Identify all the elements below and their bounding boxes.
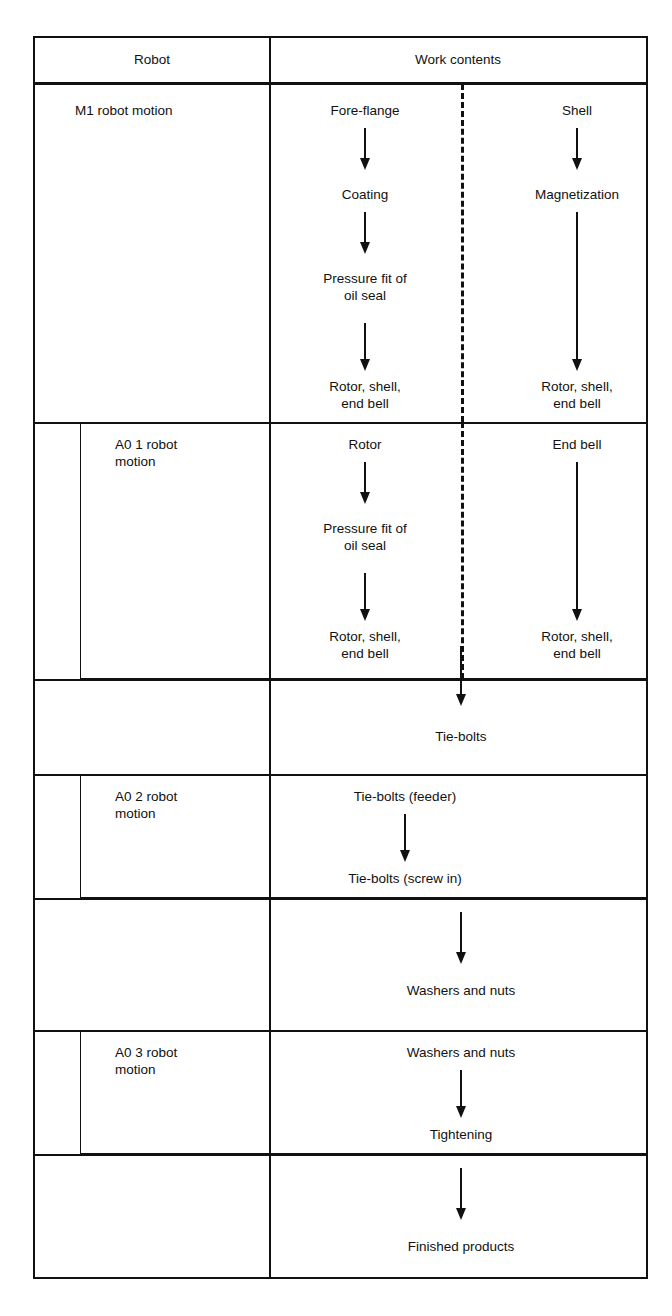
down-arrow-icon <box>451 1168 471 1220</box>
down-arrow-icon <box>355 462 375 504</box>
down-arrow-icon <box>451 646 471 706</box>
node-pressure-fit-of-oil-seal-a01: Pressure fit of oil seal <box>275 520 455 554</box>
node-rotor-shell-end-bell-right-a01: Rotor, shell, end bell <box>502 628 652 662</box>
down-arrow-icon <box>355 323 375 371</box>
node-finished-products: Finished products <box>341 1238 581 1255</box>
row-label-a01-robot-motion: A0 1 robot motion <box>115 436 265 470</box>
node-fore-flange: Fore-flange <box>275 102 455 119</box>
down-arrow-icon <box>395 814 415 862</box>
down-arrow-icon <box>451 1070 471 1118</box>
down-arrow-icon <box>567 212 587 371</box>
down-arrow-icon <box>355 212 375 254</box>
down-arrow-icon <box>567 462 587 621</box>
dashed-divider-icon <box>461 84 464 422</box>
node-rotor-shell-end-bell-left-a01: Rotor, shell, end bell <box>275 628 455 662</box>
row-separator <box>35 898 646 900</box>
down-arrow-icon <box>451 912 471 964</box>
node-rotor-shell-end-bell-left: Rotor, shell, end bell <box>275 378 455 412</box>
header-separator <box>35 82 646 85</box>
row-separator <box>35 679 646 681</box>
node-tie-bolts-feeder: Tie-bolts (feeder) <box>290 788 520 805</box>
node-tie-bolts: Tie-bolts <box>351 728 571 745</box>
node-tie-bolts-screw-in: Tie-bolts (screw in) <box>285 870 525 887</box>
node-rotor: Rotor <box>275 436 455 453</box>
column-header-robot: Robot <box>35 38 269 82</box>
row-label-a02-robot-motion: A0 2 robot motion <box>115 788 265 822</box>
node-rotor-shell-end-bell-right: Rotor, shell, end bell <box>502 378 652 412</box>
node-coating: Coating <box>275 186 455 203</box>
node-tightening: Tightening <box>341 1126 581 1143</box>
node-magnetization: Magnetization <box>502 186 652 203</box>
row-separator <box>35 1154 646 1156</box>
down-arrow-icon <box>567 128 587 170</box>
process-flow-table: Robot Work contents M1 robot motion Fore… <box>33 36 648 1279</box>
node-washers-and-nuts-a03: Washers and nuts <box>341 1044 581 1061</box>
row-label-a03-robot-motion: A0 3 robot motion <box>115 1044 265 1078</box>
node-end-bell: End bell <box>502 436 652 453</box>
node-pressure-fit-of-oil-seal: Pressure fit of oil seal <box>275 270 455 304</box>
row-label-m1-robot-motion: M1 robot motion <box>75 102 265 119</box>
node-shell: Shell <box>502 102 652 119</box>
node-washers-and-nuts: Washers and nuts <box>341 982 581 999</box>
column-header-work-contents: Work contents <box>271 38 645 82</box>
down-arrow-icon <box>355 573 375 621</box>
down-arrow-icon <box>355 128 375 170</box>
